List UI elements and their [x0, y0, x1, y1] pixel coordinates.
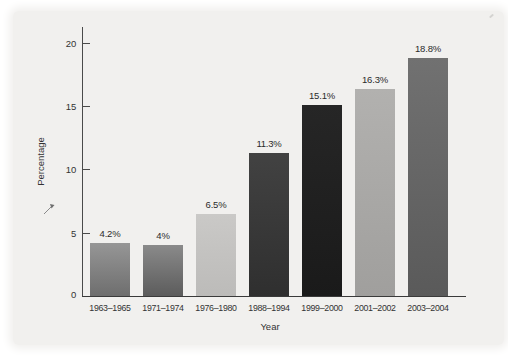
y-tick-label: 20	[46, 37, 76, 48]
bar-1999–2000	[302, 105, 342, 296]
bar-1971–1974	[143, 245, 183, 296]
bar-value-label: 15.1%	[292, 90, 352, 101]
x-tick-label: 1988–1994	[239, 303, 299, 313]
y-axis-line	[82, 27, 83, 297]
x-tick-label: 1963–1965	[80, 303, 140, 313]
bar-value-label: 11.3%	[239, 138, 299, 149]
x-tick-label: 1976–1980	[186, 303, 246, 313]
scan-artifact-mark	[42, 201, 58, 217]
bar-1976–1980	[196, 214, 236, 296]
y-tick-mark	[83, 169, 90, 170]
y-tick-label: 0	[46, 288, 76, 299]
x-tick-label: 2003–2004	[398, 303, 458, 313]
y-tick-mark	[83, 43, 90, 44]
bar-value-label: 6.5%	[186, 199, 246, 210]
y-tick-label: 10	[46, 164, 76, 175]
bar-value-label: 18.8%	[398, 43, 458, 54]
bar-1963–1965	[90, 243, 130, 296]
x-axis-title: Year	[240, 321, 300, 332]
bar-2003–2004	[408, 58, 448, 296]
bar-1988–1994	[249, 153, 289, 296]
bar-value-label: 4%	[133, 230, 193, 241]
y-tick-label: 5	[46, 227, 76, 238]
y-tick-mark	[83, 106, 90, 107]
bar-value-label: 4.2%	[80, 228, 140, 239]
bar-chart-figure: 05101520 4.2%4%6.5%11.3%15.1%16.3%18.8% …	[0, 0, 508, 361]
bar-2001–2002	[355, 89, 395, 296]
x-tick-label: 1971–1974	[133, 303, 193, 313]
x-tick-label: 1999–2000	[292, 303, 352, 313]
y-tick-label: 15	[46, 100, 76, 111]
bar-value-label: 16.3%	[345, 74, 405, 85]
y-axis-title: Percentage	[35, 116, 46, 208]
x-tick-label: 2001–2002	[345, 303, 405, 313]
